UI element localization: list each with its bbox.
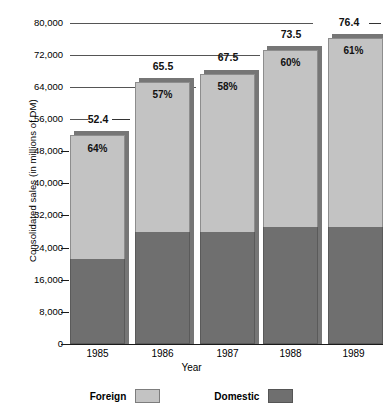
- bar-segment-domestic-1985[interactable]: [70, 259, 125, 344]
- bar-segment-foreign-1986[interactable]: [135, 82, 190, 232]
- legend: Foreign Domestic: [0, 385, 383, 407]
- bar-total-label-1987: 67.5: [198, 51, 258, 63]
- legend-swatch-foreign: [135, 389, 160, 403]
- y-tick-label-24000: 24,000: [34, 242, 63, 253]
- x-axis-title: Year: [0, 362, 383, 373]
- bar-pct-label-1988: 60%: [263, 57, 318, 68]
- y-tick-label-64000: 64,000: [34, 81, 63, 92]
- x-tick-label-1988: 1988: [263, 348, 318, 359]
- x-tick-label-1987: 1987: [200, 348, 255, 359]
- bar-segment-domestic-1987[interactable]: [200, 232, 255, 344]
- y-tick: [61, 312, 69, 313]
- y-tick: [61, 280, 69, 281]
- bar-pct-label-1989: 61%: [328, 45, 379, 56]
- y-tick-label-16000: 16,000: [34, 274, 63, 285]
- bar-total-label-1989: 76.4: [325, 16, 373, 28]
- legend-item-foreign[interactable]: Foreign: [90, 389, 161, 403]
- total-leader-dash-1989: [369, 23, 381, 24]
- legend-swatch-domestic: [268, 389, 293, 403]
- y-tick-label-8000: 8,000: [39, 306, 63, 317]
- bar-segment-domestic-1989[interactable]: [328, 227, 383, 344]
- bar-total-label-1988: 73.5: [261, 28, 321, 40]
- bar-segment-domestic-1988[interactable]: [263, 227, 318, 344]
- x-tick-label-1986: 1986: [135, 348, 190, 359]
- y-tick-label-40000: 40,000: [34, 177, 63, 188]
- y-tick-label-56000: 56,000: [34, 113, 63, 124]
- x-tick-label-1985: 1985: [70, 348, 125, 359]
- bar-pct-label-1985: 64%: [70, 143, 125, 154]
- y-tick-label-32000: 32,000: [34, 209, 63, 220]
- y-tick: [61, 151, 69, 152]
- bar-total-label-1986: 65.5: [133, 60, 193, 72]
- bar-segment-foreign-1988[interactable]: [263, 50, 318, 227]
- y-tick-label-72000: 72,000: [34, 49, 63, 60]
- legend-label-foreign: Foreign: [90, 391, 127, 402]
- x-tick-label-1989: 1989: [328, 348, 379, 359]
- stacked-bar-chart: Consolidated sales (in millions of DM) 8…: [0, 0, 383, 411]
- y-tick: [61, 183, 69, 184]
- bar-segment-domestic-1986[interactable]: [135, 232, 190, 344]
- y-tick-label-48000: 48,000: [34, 145, 63, 156]
- gridline: [70, 23, 313, 24]
- legend-item-domestic[interactable]: Domestic: [214, 389, 293, 403]
- total-leader-dash-1985: [112, 119, 130, 120]
- x-axis-line: [61, 344, 383, 345]
- bar-segment-foreign-1987[interactable]: [200, 74, 255, 232]
- bar-pct-label-1987: 58%: [200, 81, 255, 92]
- y-tick-label-80000: 80,000: [34, 17, 63, 28]
- y-tick: [61, 215, 69, 216]
- bar-pct-label-1986: 57%: [135, 89, 190, 100]
- y-tick: [61, 248, 69, 249]
- legend-label-domestic: Domestic: [214, 391, 259, 402]
- bar-segment-foreign-1989[interactable]: [328, 38, 383, 227]
